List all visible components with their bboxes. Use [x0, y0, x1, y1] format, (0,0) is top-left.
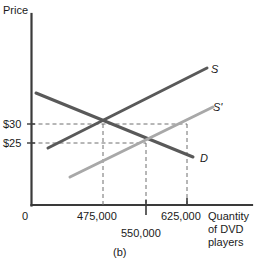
curve-label-supply: S	[211, 63, 218, 75]
y-axis-title: Price	[3, 4, 28, 16]
panel-caption: (b)	[113, 246, 126, 258]
supply-shifted-curve	[70, 107, 213, 177]
x-tick-label-550000: 550,000	[121, 227, 161, 239]
x-tick-label-475000: 475,000	[77, 210, 117, 222]
y-tick-label-30: $30	[3, 118, 21, 130]
curve-label-supply-shifted: S'	[213, 101, 222, 113]
x-axis-title-line-1: Quantity of DVD players	[208, 210, 249, 248]
x-axis-title: Quantity of DVD players	[208, 210, 260, 249]
x-axis-origin-label: 0	[22, 210, 28, 222]
y-tick-label-25: $25	[3, 137, 21, 149]
curve-label-demand: D	[200, 152, 208, 164]
x-tick-label-625000: 625,000	[161, 210, 201, 222]
supply-demand-figure: Price $30 $25 0 475,000 625,000 550,000 …	[0, 0, 260, 264]
demand-curve	[36, 93, 193, 157]
